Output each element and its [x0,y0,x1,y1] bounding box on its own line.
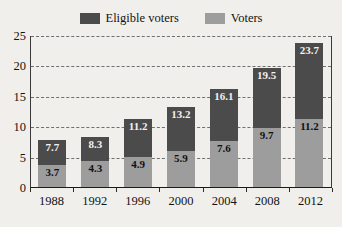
x-axis-category-label: 1992 [81,194,109,209]
bar-group[interactable]: 13.25.9 [167,36,195,187]
x-axis-ticks [30,188,332,193]
bar-value-label-voters: 4.9 [124,159,152,170]
y-axis-tick-label: 10 [14,120,27,135]
bar-segment-eligible-voters[interactable]: 16.1 [210,89,238,141]
bar-segment-voters[interactable]: 5.9 [167,151,195,187]
bar-segment-eligible-voters[interactable]: 8.3 [81,137,109,161]
bar-value-label-eligible-voters: 8.3 [81,139,109,150]
x-axis-category-label: 1988 [38,194,66,209]
bar-segment-eligible-voters[interactable]: 7.7 [38,140,66,164]
x-axis-tick [159,188,160,192]
x-axis-tick [332,188,333,192]
plot-area: 0510152025 7.73.78.34.311.24.913.25.916.… [30,36,332,188]
x-axis-category-label: 2000 [167,194,195,209]
legend-label-eligible-voters: Eligible voters [106,12,179,25]
bar-value-label-voters: 4.3 [81,163,109,174]
bar-value-label-eligible-voters: 7.7 [38,142,66,153]
legend-swatch-eligible-voters [80,13,100,24]
y-axis-tick-label: 25 [14,29,27,44]
bar-segment-voters[interactable]: 4.3 [81,161,109,187]
legend-label-voters: Voters [231,12,263,25]
bar-group[interactable]: 16.17.6 [210,36,238,187]
bar-value-label-voters: 11.2 [295,121,323,132]
x-axis-tick [203,188,204,192]
bar-group[interactable]: 8.34.3 [81,36,109,187]
bar-group[interactable]: 7.73.7 [38,36,66,187]
bar-value-label-voters: 5.9 [167,153,195,164]
y-axis-tick-label: 15 [14,89,27,104]
x-axis-category-label: 2008 [253,194,281,209]
bar-segment-eligible-voters[interactable]: 23.7 [295,43,323,119]
bar-segment-eligible-voters[interactable]: 13.2 [167,107,195,151]
x-axis-tick [116,188,117,192]
bar-value-label-eligible-voters: 16.1 [210,91,238,102]
x-axis-tick [246,188,247,192]
y-axis-tick-label: 20 [14,59,27,74]
x-axis-tick [30,188,31,192]
x-axis-tick [289,188,290,192]
chart-legend: Eligible voters Voters [0,8,342,28]
bar-segment-voters[interactable]: 9.7 [253,128,281,187]
y-axis-tick-label: 0 [20,181,26,196]
bar-segment-eligible-voters[interactable]: 11.2 [124,119,152,157]
x-axis-category-label: 1996 [124,194,152,209]
bar-chart: Eligible voters Voters 0510152025 7.73.7… [0,0,342,227]
bar-value-label-eligible-voters: 13.2 [167,109,195,120]
bar-group[interactable]: 19.59.7 [253,36,281,187]
x-axis-category-label: 2012 [296,194,324,209]
bar-value-label-eligible-voters: 19.5 [253,70,281,81]
bar-value-label-eligible-voters: 23.7 [295,45,323,56]
bar-segment-voters[interactable]: 11.2 [295,119,323,187]
x-axis-labels: 1988199219962000200420082012 [30,194,332,216]
bar-value-label-eligible-voters: 11.2 [124,121,152,132]
legend-item-voters: Voters [205,12,263,25]
bar-value-label-voters: 3.7 [38,167,66,178]
x-axis-tick [73,188,74,192]
bar-value-label-voters: 9.7 [253,130,281,141]
x-axis-category-label: 2004 [210,194,238,209]
bar-segment-voters[interactable]: 4.9 [124,157,152,187]
bar-segment-voters[interactable]: 3.7 [38,165,66,187]
bar-value-label-voters: 7.6 [210,143,238,154]
bar-segment-eligible-voters[interactable]: 19.5 [253,68,281,128]
legend-item-eligible-voters: Eligible voters [80,12,179,25]
bar-segment-voters[interactable]: 7.6 [210,141,238,187]
legend-swatch-voters [205,13,225,24]
bar-group[interactable]: 23.711.2 [295,36,323,187]
bar-group[interactable]: 11.24.9 [124,36,152,187]
y-axis-tick-label: 5 [20,150,26,165]
bars-container: 7.73.78.34.311.24.913.25.916.17.619.59.7… [31,36,331,187]
